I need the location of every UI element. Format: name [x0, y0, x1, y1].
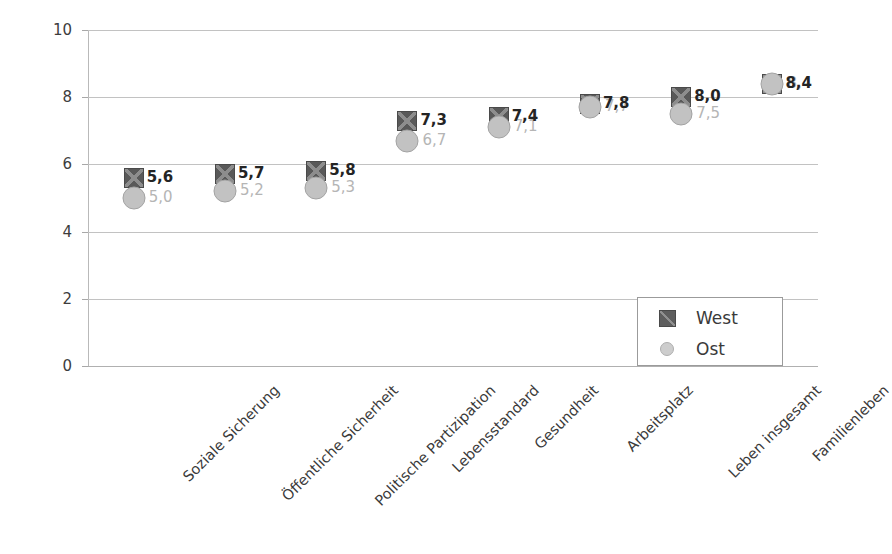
x-axis-label: Leben insgesamt	[725, 382, 824, 481]
data-point-ost[interactable]	[670, 103, 693, 126]
data-point-ost[interactable]	[578, 96, 601, 119]
x-axis-label: Soziale Sicherung	[179, 382, 282, 485]
value-label-ost: 5,3	[331, 178, 355, 196]
y-axis-tick-label: 6	[12, 155, 72, 173]
value-label-west: 5,7	[238, 164, 265, 182]
y-axis-tick	[82, 30, 88, 31]
x-axis-label: Lebensstandard	[449, 382, 542, 475]
value-label-west: 7,3	[420, 111, 447, 129]
value-label-west: 7,4	[512, 107, 539, 125]
circle-icon	[638, 342, 696, 356]
legend-item-ost[interactable]: Ost	[638, 334, 782, 364]
chart-legend: West Ost	[637, 297, 783, 366]
y-axis-tick	[82, 164, 88, 165]
value-label-west: 8,4	[785, 74, 812, 92]
y-axis-tick-label: 8	[12, 88, 72, 106]
data-point-ost[interactable]	[396, 129, 419, 152]
y-axis-tick	[82, 299, 88, 300]
x-axis-label: Arbeitsplatz	[623, 382, 696, 455]
data-point-ost[interactable]	[487, 116, 510, 139]
y-axis-tick-label: 10	[12, 21, 72, 39]
gridline	[88, 366, 818, 367]
legend-label-ost: Ost	[696, 339, 725, 359]
value-label-west: 5,8	[329, 161, 356, 179]
legend-label-west: West	[696, 308, 738, 328]
y-axis-tick-label: 2	[12, 290, 72, 308]
value-label-ost: 6,7	[422, 131, 446, 149]
legend-item-west[interactable]: West	[638, 303, 782, 333]
data-point-west[interactable]	[397, 111, 417, 131]
y-axis-tick-label: 0	[12, 357, 72, 375]
value-label-ost: 7,5	[696, 104, 720, 122]
data-point-ost[interactable]	[305, 176, 328, 199]
data-point-ost[interactable]	[213, 180, 236, 203]
gridline	[88, 30, 818, 31]
value-label-ost: 5,2	[240, 181, 264, 199]
gridline	[88, 164, 818, 165]
data-point-ost[interactable]	[761, 72, 784, 95]
value-label-ost: 5,0	[149, 188, 173, 206]
y-axis-tick	[82, 366, 88, 367]
y-axis-tick-label: 4	[12, 223, 72, 241]
gridline	[88, 232, 818, 233]
square-x-icon	[638, 310, 696, 327]
value-label-west: 7,8	[603, 94, 630, 112]
data-point-ost[interactable]	[122, 187, 145, 210]
y-axis-tick	[82, 232, 88, 233]
value-label-west: 8,0	[694, 87, 721, 105]
data-point-west[interactable]	[124, 168, 144, 188]
value-label-west: 5,6	[147, 168, 174, 186]
y-axis-tick	[82, 97, 88, 98]
